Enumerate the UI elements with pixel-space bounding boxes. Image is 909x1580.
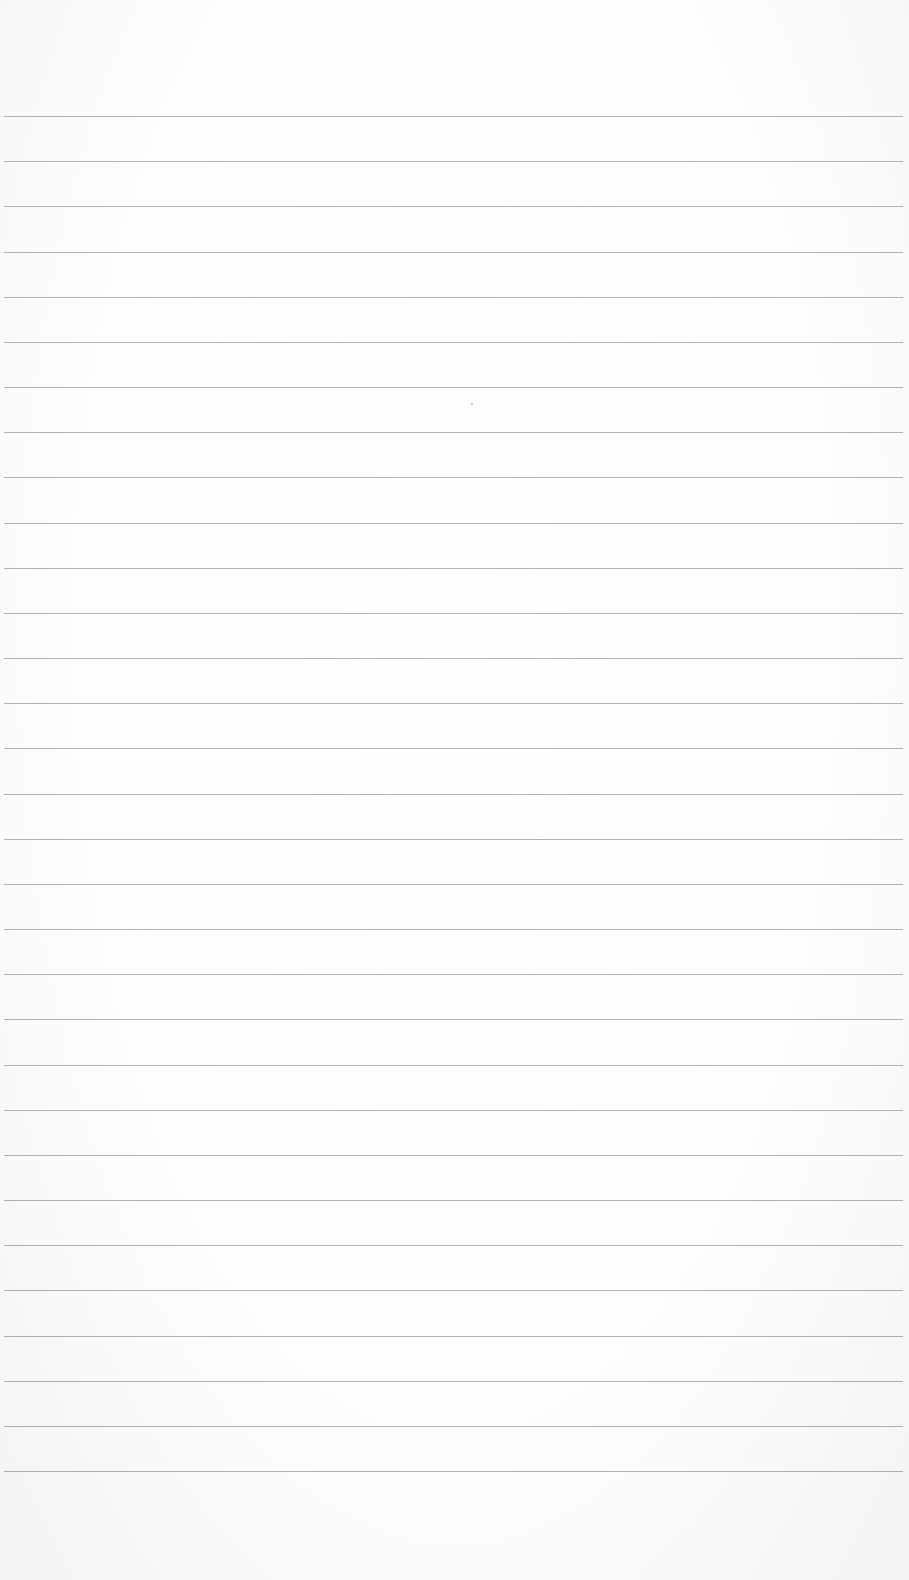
ruled-line <box>4 387 903 388</box>
ruled-line <box>4 1290 903 1291</box>
ruled-line <box>4 658 903 659</box>
ruled-line <box>4 1426 903 1427</box>
ruled-line <box>4 252 903 253</box>
ruled-line <box>4 523 903 524</box>
ruled-line <box>4 342 903 343</box>
ruled-line <box>4 1245 903 1246</box>
ruled-line <box>4 161 903 162</box>
ruled-line <box>4 1019 903 1020</box>
ruled-line <box>4 1336 903 1337</box>
ruled-line <box>4 297 903 298</box>
ruled-line <box>4 477 903 478</box>
ruled-line <box>4 839 903 840</box>
lined-paper-sheet <box>0 0 909 1580</box>
ruled-line <box>4 748 903 749</box>
ruled-line <box>4 1471 903 1472</box>
ruled-line <box>4 1065 903 1066</box>
ruled-line <box>4 929 903 930</box>
paper-speck <box>471 403 473 405</box>
ruled-line <box>4 1200 903 1201</box>
ruled-line <box>4 568 903 569</box>
ruled-line <box>4 1110 903 1111</box>
ruled-line <box>4 116 903 117</box>
ruled-line <box>4 613 903 614</box>
ruled-line <box>4 1381 903 1382</box>
ruled-line <box>4 703 903 704</box>
ruled-line <box>4 206 903 207</box>
ruled-line <box>4 974 903 975</box>
ruled-line <box>4 432 903 433</box>
ruled-line <box>4 884 903 885</box>
ruled-line <box>4 794 903 795</box>
ruled-line <box>4 1155 903 1156</box>
